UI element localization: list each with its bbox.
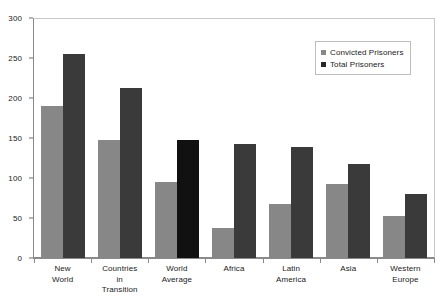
x-axis-category-label-line: in: [91, 275, 148, 286]
bar-total-prisoners: [63, 54, 85, 258]
x-axis-category-label: WesternEurope: [377, 264, 434, 285]
bar-total-prisoners: [291, 147, 313, 258]
x-tick-mark: [434, 259, 435, 263]
x-axis-line: [33, 258, 435, 259]
bar-chart: 050100150200250300 NewWorldCountriesinTr…: [0, 0, 446, 302]
x-axis-category-label-line: Latin: [263, 264, 320, 275]
x-axis-category-label: NewWorld: [34, 264, 91, 285]
y-axis: 050100150200250300: [0, 0, 30, 302]
x-axis-category-label-line: Europe: [377, 275, 434, 286]
legend-item: Total Prisoners: [321, 58, 404, 70]
legend: Convicted PrisonersTotal Prisoners: [315, 41, 411, 75]
x-axis-category-label: Africa: [205, 264, 262, 275]
x-tick-mark: [148, 259, 149, 263]
x-axis-category-label-line: Asia: [320, 264, 377, 275]
bar-convicted-prisoners: [326, 184, 348, 258]
x-axis-category-label: CountriesinTransition: [91, 264, 148, 296]
x-axis-category-label-line: Countries: [91, 264, 148, 275]
y-tick-label: 200: [8, 94, 22, 103]
bar-convicted-prisoners: [383, 216, 405, 258]
y-tick-label: 50: [13, 214, 22, 223]
legend-swatch-icon: [321, 62, 326, 67]
x-tick-mark: [91, 259, 92, 263]
legend-swatch-icon: [321, 50, 326, 55]
y-tick-mark: [29, 138, 33, 139]
y-tick-mark: [29, 218, 33, 219]
y-tick-label: 100: [8, 174, 22, 183]
x-tick-mark: [205, 259, 206, 263]
bar-convicted-prisoners: [212, 228, 234, 258]
legend-item: Convicted Prisoners: [321, 46, 404, 58]
bar-convicted-prisoners: [41, 106, 63, 258]
x-tick-mark: [263, 259, 264, 263]
bar-convicted-prisoners: [269, 204, 291, 258]
bar-group: [269, 18, 313, 258]
x-axis-category-label-line: New: [34, 264, 91, 275]
x-axis-category-label-line: Western: [377, 264, 434, 275]
y-tick-label: 250: [8, 54, 22, 63]
x-axis-category-label-line: World: [34, 275, 91, 286]
x-axis-category-label: LatinAmerica: [263, 264, 320, 285]
bar-total-prisoners: [120, 88, 142, 258]
bar-total-prisoners: [177, 140, 199, 258]
bar-group: [98, 18, 142, 258]
bar-group: [155, 18, 199, 258]
y-tick-mark: [29, 178, 33, 179]
x-tick-mark: [34, 259, 35, 263]
bar-total-prisoners: [348, 164, 370, 258]
x-axis-category-label-line: America: [263, 275, 320, 286]
bar-convicted-prisoners: [98, 140, 120, 258]
bar-total-prisoners: [405, 194, 427, 258]
bar-group: [212, 18, 256, 258]
y-tick-mark: [29, 98, 33, 99]
legend-item-label: Convicted Prisoners: [330, 48, 404, 57]
y-tick-mark: [29, 258, 33, 259]
y-tick-label: 300: [8, 14, 22, 23]
y-tick-mark: [29, 18, 33, 19]
legend-item-label: Total Prisoners: [330, 60, 384, 69]
x-axis-category-label-line: Average: [148, 275, 205, 286]
x-axis-category-label: Asia: [320, 264, 377, 275]
bar-total-prisoners: [234, 144, 256, 258]
x-axis-category-label: WorldAverage: [148, 264, 205, 285]
bar-group: [41, 18, 85, 258]
x-axis-labels: NewWorldCountriesinTransitionWorldAverag…: [34, 264, 434, 302]
x-axis-category-label-line: Africa: [205, 264, 262, 275]
y-tick-label: 0: [17, 254, 22, 263]
x-tick-mark: [320, 259, 321, 263]
x-axis-category-label-line: World: [148, 264, 205, 275]
x-tick-mark: [377, 259, 378, 263]
y-tick-mark: [29, 58, 33, 59]
y-tick-label: 150: [8, 134, 22, 143]
bar-convicted-prisoners: [155, 182, 177, 258]
x-axis-category-label-line: Transition: [91, 285, 148, 296]
